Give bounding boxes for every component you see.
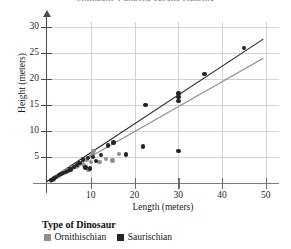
legend-swatch-icon <box>44 234 51 241</box>
data-point-sau <box>176 149 180 153</box>
x-axis-title: Length (meters) <box>47 202 279 212</box>
data-point-orn <box>104 157 108 161</box>
y-axis-tick-label: 5 <box>13 151 39 161</box>
x-axis-tick-label: 50 <box>254 190 278 200</box>
y-axis-tick <box>41 105 52 106</box>
data-point-sau <box>124 152 128 156</box>
data-point-sau <box>176 91 180 95</box>
plot-area <box>47 22 279 183</box>
y-axis-title: Height (meters) <box>17 23 27 143</box>
data-point-orn <box>110 158 114 162</box>
x-axis-tick <box>135 178 136 189</box>
x-axis-tick-label: 40 <box>210 190 234 200</box>
x-axis-tick <box>266 178 267 189</box>
data-point-sau <box>202 72 206 76</box>
gridline-vertical <box>266 22 267 183</box>
y-axis-tick <box>41 131 52 132</box>
gridline-vertical <box>135 22 136 183</box>
data-point-sau <box>141 144 145 148</box>
legend-entry-label: Saurischian <box>128 232 172 242</box>
x-axis-tick <box>222 178 223 189</box>
x-axis-tick <box>178 178 179 189</box>
data-point-sau <box>88 166 92 170</box>
legend: Type of Dinosaur OrnithischianSaurischia… <box>42 219 262 242</box>
legend-entry[interactable]: Ornithischian <box>44 232 106 242</box>
data-point-orn <box>117 152 121 156</box>
x-axis-line <box>33 183 279 184</box>
gridline-horizontal <box>47 79 279 80</box>
gridline-vertical <box>222 22 223 183</box>
x-axis-tick <box>91 178 92 189</box>
data-point-sau <box>143 103 147 107</box>
y-axis-tick <box>41 157 52 158</box>
data-point-orn <box>89 160 93 164</box>
gridline-horizontal <box>47 27 279 28</box>
chart-figure: Dinosaur Lengths versus Heights 51015202… <box>0 0 291 249</box>
legend-entries: OrnithischianSaurischian <box>42 232 262 242</box>
y-axis-line <box>46 14 47 193</box>
y-axis-tick <box>41 53 52 54</box>
x-axis-tick-label: 30 <box>166 190 190 200</box>
data-point-sau <box>106 143 110 147</box>
gridline-horizontal <box>47 53 279 54</box>
data-point-sau <box>111 140 115 144</box>
legend-entry[interactable]: Saurischian <box>117 232 172 242</box>
legend-swatch-icon <box>117 234 124 241</box>
gridline-horizontal <box>47 131 279 132</box>
data-point-orn <box>91 149 95 153</box>
data-point-sau <box>77 161 81 165</box>
x-axis-tick-label: 20 <box>123 190 147 200</box>
y-axis-tick <box>41 27 52 28</box>
y-axis-arrow-icon <box>43 10 51 17</box>
data-point-sau <box>86 156 90 160</box>
data-point-sau <box>176 99 180 103</box>
y-axis-tick <box>41 79 52 80</box>
x-axis-tick-label: 10 <box>79 190 103 200</box>
legend-title: Type of Dinosaur <box>42 219 262 230</box>
data-point-sau <box>81 157 85 161</box>
chart-title: Dinosaur Lengths versus Heights <box>0 0 291 1</box>
legend-entry-label: Ornithischian <box>55 232 107 242</box>
